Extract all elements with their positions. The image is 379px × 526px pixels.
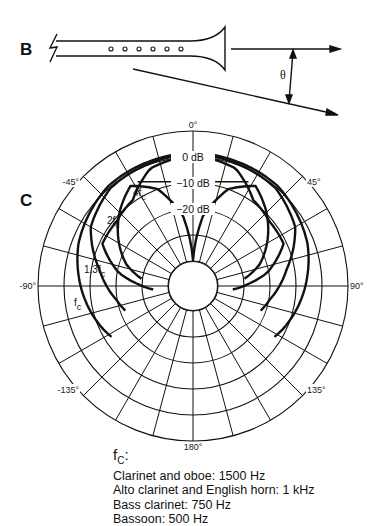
arrowhead-icon [326, 109, 338, 115]
curve-label: fc [74, 297, 82, 312]
break-mark-icon [50, 34, 57, 62]
angle-label: -45° [62, 177, 79, 187]
theta-arc [289, 52, 293, 101]
curve-label: 4fc [133, 187, 146, 202]
angle-label: 90° [350, 281, 364, 291]
db-label: 0 dB [182, 151, 204, 163]
db-label: −10 dB [176, 177, 210, 189]
finger-holes [109, 47, 183, 51]
legend-item-bass-clarinet: Bass clarinet: 750 Hz [113, 498, 315, 513]
arrowhead-icon [290, 50, 296, 58]
angle-label: -90° [19, 281, 36, 291]
arrowhead-icon [330, 46, 340, 52]
angle-label: 135° [307, 385, 326, 395]
legend: fC: Clarinet and oboe: 1500 Hz Alto clar… [113, 448, 315, 526]
angle-label: 45° [307, 177, 321, 187]
legend-header: fC: [113, 448, 315, 469]
db-label: −20 dB [176, 203, 210, 215]
arrowhead-icon [286, 95, 292, 103]
angle-label: -135° [57, 385, 79, 395]
theta-label: θ [280, 68, 286, 82]
angle-label: 0° [189, 120, 198, 130]
legend-item-bassoon: Bassoon: 500 Hz [113, 512, 315, 526]
legend-item-clarinet-oboe: Clarinet and oboe: 1500 Hz [113, 469, 315, 484]
angle-arrow [133, 69, 335, 114]
curve-label: 1.3fc [84, 264, 106, 279]
instrument-drawing [50, 27, 340, 115]
legend-item-alto-clarinet: Alto clarinet and English horn: 1 kHz [113, 483, 315, 498]
center-disk [169, 262, 218, 311]
